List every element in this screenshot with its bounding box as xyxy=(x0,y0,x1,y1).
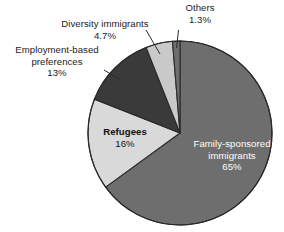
pie-label-employment-based: Employment-based preferences 13% xyxy=(2,44,112,79)
pie-label-family-sponsored: Family-sponsored immigrants 65% xyxy=(186,138,278,173)
pie-label-diversity-name: Diversity immigrants xyxy=(40,18,170,30)
pie-label-others-value: 1.3% xyxy=(169,14,231,26)
pie-label-employment-based-name-1: Employment-based xyxy=(2,44,112,56)
pie-label-employment-based-name-2: preferences xyxy=(2,56,112,68)
pie-label-refugees-name: Refugees xyxy=(88,126,162,138)
pie-label-family-sponsored-name-2: immigrants xyxy=(186,150,278,162)
pie-chart-figure: Others 1.3% Diversity immigrants 4.7% Em… xyxy=(0,0,284,232)
pie-label-diversity: Diversity immigrants 4.7% xyxy=(40,18,170,41)
pie-label-refugees-value: 16% xyxy=(88,138,162,150)
pie-label-diversity-value: 4.7% xyxy=(40,30,170,42)
pie-label-others: Others 1.3% xyxy=(169,2,231,25)
pie-label-refugees: Refugees 16% xyxy=(88,126,162,149)
pie-label-family-sponsored-name-1: Family-sponsored xyxy=(186,138,278,150)
pie-label-employment-based-value: 13% xyxy=(2,67,112,79)
pie-label-others-name: Others xyxy=(169,2,231,14)
pie-label-family-sponsored-value: 65% xyxy=(186,161,278,173)
